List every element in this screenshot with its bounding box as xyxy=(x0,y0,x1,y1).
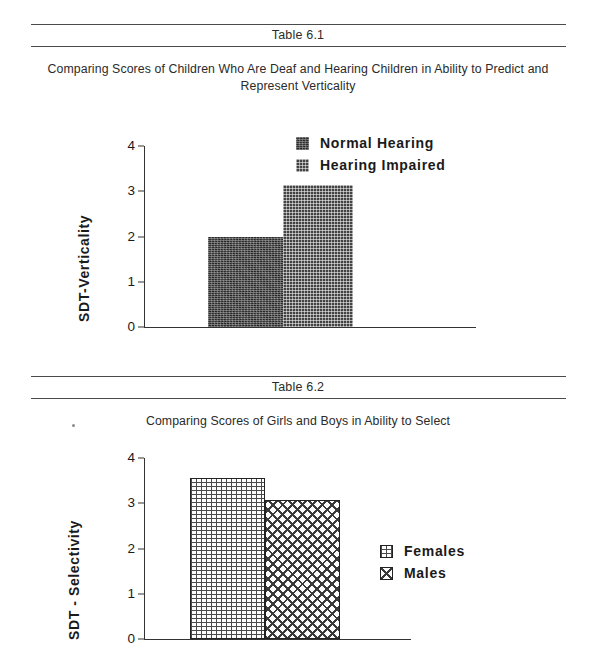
y-tick-label-0: 0 xyxy=(127,320,135,334)
x-axis-line xyxy=(144,639,411,640)
y-tick-label-2: 2 xyxy=(127,542,135,556)
y-axis-label: SDT - Selectivity xyxy=(66,520,82,640)
y-axis-label: SDT-Verticality xyxy=(76,215,92,322)
bar-hearing-impaired xyxy=(283,185,353,327)
table-block-6-2: Table 6.2 Comparing Scores of Girls and … xyxy=(0,376,596,430)
legend-item: Females xyxy=(380,540,465,562)
bar-males xyxy=(265,500,340,639)
legend-item: Hearing Impaired xyxy=(296,154,446,176)
chart-verticality: SDT-Verticality 4 3 2 1 0 Normal Hearing xyxy=(0,132,596,347)
y-tick-label-1: 1 xyxy=(127,275,135,289)
table-title: Comparing Scores of Children Who Are Dea… xyxy=(0,47,596,95)
legend-label-males: Males xyxy=(404,565,446,581)
y-tick-label-1: 1 xyxy=(127,587,135,601)
y-tick-label-3: 3 xyxy=(127,185,135,199)
chart-legend: Normal Hearing Hearing Impaired xyxy=(296,132,446,176)
y-axis-line xyxy=(144,146,145,327)
y-tick-label-2: 2 xyxy=(127,230,135,244)
y-axis-line xyxy=(144,458,145,639)
legend-swatch-hearing-impaired xyxy=(296,159,309,172)
legend-swatch-females xyxy=(380,545,393,558)
y-axis-ticks: 4 3 2 1 0 xyxy=(118,146,144,327)
y-tick-label-0: 0 xyxy=(127,632,135,646)
table-number-label: Table 6.1 xyxy=(0,25,596,46)
y-axis-ticks: 4 3 2 1 0 xyxy=(118,458,144,639)
chart-selectivity: SDT - Selectivity 4 3 2 1 0 Females xyxy=(0,444,596,649)
bar-normal-hearing xyxy=(208,237,283,328)
legend-label-females: Females xyxy=(404,543,465,559)
y-tick-label-4: 4 xyxy=(127,451,135,465)
chart-legend: Females Males xyxy=(380,540,465,584)
legend-swatch-males xyxy=(380,567,393,580)
bar-females xyxy=(190,478,265,639)
y-tick-label-4: 4 xyxy=(127,139,135,153)
legend-label-normal-hearing: Normal Hearing xyxy=(320,135,434,151)
y-tick-label-3: 3 xyxy=(127,497,135,511)
legend-item: Normal Hearing xyxy=(296,132,446,154)
x-axis-line xyxy=(144,327,476,328)
table-block-6-1: Table 6.1 Comparing Scores of Children W… xyxy=(0,24,596,95)
legend-item: Males xyxy=(380,562,465,584)
legend-label-hearing-impaired: Hearing Impaired xyxy=(320,157,446,173)
legend-swatch-normal-hearing xyxy=(296,137,309,150)
table-number-label: Table 6.2 xyxy=(0,377,596,398)
table-title: Comparing Scores of Girls and Boys in Ab… xyxy=(0,399,596,430)
